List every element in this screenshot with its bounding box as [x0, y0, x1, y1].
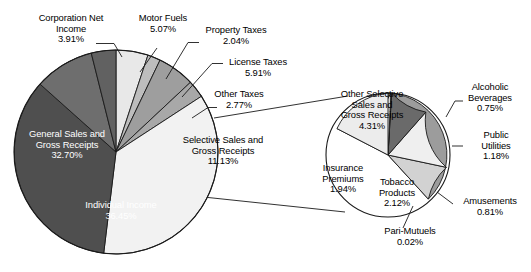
label-amusements: Amusements 0.81% [452, 196, 528, 217]
label-corporation-net-income: Corporation Net Income 3.91% [16, 13, 126, 45]
label-alcoholic-beverages: Alcoholic Beverages 0.75% [455, 82, 525, 114]
label-other-selective: Other Selective Sales and Gross Receipts… [324, 89, 420, 131]
label-selective-sales: Selective Sales and Gross Receipts 11.13… [162, 135, 284, 167]
label-individual-income: Individual Income 36.45% [62, 200, 180, 221]
label-other-taxes: Other Taxes 2.77% [200, 89, 278, 110]
label-pari-mutuels: Pari-Mutuels 0.02% [370, 226, 450, 247]
label-public-utilities: Public Utilities 1.18% [466, 130, 526, 162]
label-property-taxes: Property Taxes 2.04% [192, 25, 280, 46]
label-insurance-premiums: Insurance Premiums 1.94% [310, 163, 376, 195]
label-general-sales: General Sales and Gross Receipts 32.70% [14, 129, 120, 161]
label-license-taxes: License Taxes 5.91% [216, 57, 300, 78]
leader-amusements [437, 192, 453, 204]
pie-chart-figure: Corporation Net Income 3.91% Motor Fuels… [0, 0, 531, 272]
label-motor-fuels: Motor Fuels 5.07% [124, 13, 202, 34]
